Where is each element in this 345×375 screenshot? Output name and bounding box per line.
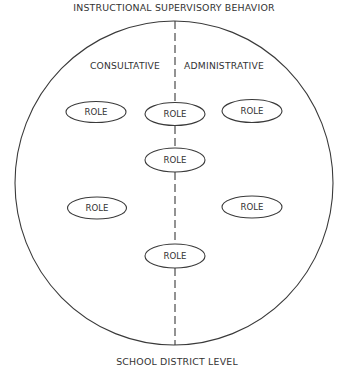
role-label-lower-right: ROLE [241,203,264,212]
outer-circle [15,21,333,345]
school-district-level-label: SCHOOL DISTRICT LEVEL [116,357,238,366]
role-label-middle-center: ROLE [164,156,187,165]
role-label-upper-center: ROLE [164,110,187,119]
administrative-label: ADMINISTRATIVE [184,61,264,70]
role-label-upper-left: ROLE [85,108,108,117]
role-label-bottom-center: ROLE [164,252,187,261]
diagram-title: INSTRUCTIONAL SUPERVISORY BEHAVIOR [73,3,274,12]
diagram-canvas: INSTRUCTIONAL SUPERVISORY BEHAVIOR CONSU… [0,0,345,375]
role-label-lower-left: ROLE [86,204,109,213]
diagram-graphic [0,0,345,375]
role-label-upper-right: ROLE [241,107,264,116]
consultative-label: CONSULTATIVE [90,61,160,70]
